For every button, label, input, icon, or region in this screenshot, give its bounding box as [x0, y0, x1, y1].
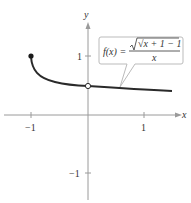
y-tick-label-pos1: 1 [77, 51, 82, 62]
x-tick-label-pos1: 1 [141, 122, 146, 133]
closed-endpoint [28, 53, 33, 58]
function-graph: x y −1 1 1 −1 f(x) = √x + 1 − 1 x [0, 0, 191, 203]
x-tick-label-neg1: −1 [25, 122, 36, 133]
x-axis-arrow-icon [175, 113, 182, 118]
x-axis-label: x [181, 109, 187, 120]
y-axis-label: y [83, 9, 89, 20]
y-tick-label-neg1: −1 [69, 168, 80, 179]
formula-numerator: √x + 1 − 1 [138, 38, 181, 49]
formula-lhs: f(x) = [103, 46, 126, 58]
y-axis-arrow-icon [86, 22, 91, 29]
open-point-hole [85, 83, 90, 88]
formula-denominator: x [151, 52, 157, 63]
formula-callout: f(x) = √x + 1 − 1 x [99, 37, 183, 87]
